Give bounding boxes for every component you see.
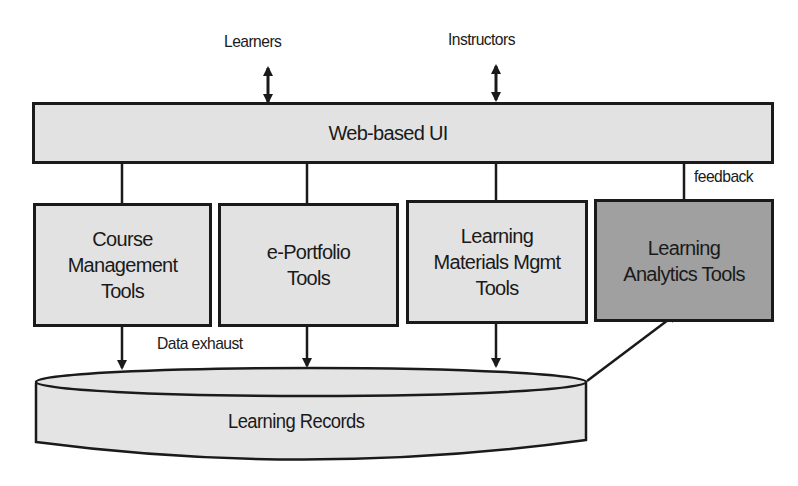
web-ui-label: Web-based UI	[328, 120, 447, 146]
course-management-tools-box: Course Management Tools	[33, 203, 212, 327]
tool-label-line: Learning	[434, 223, 561, 249]
tool-label-line: Materials Mgmt	[434, 249, 561, 275]
data-exhaust-label: Data exhaust	[157, 334, 243, 354]
instructors-label: Instructors	[448, 30, 515, 50]
tool-label-line: Course	[68, 226, 178, 252]
tool-label-line: Tools	[68, 278, 178, 304]
learners-label: Learners	[224, 32, 281, 52]
learning-analytics-tools-box: Learning Analytics Tools	[594, 199, 774, 322]
tool-label-line: Learning	[623, 235, 744, 261]
learning-records-label: Learning Records	[228, 410, 364, 433]
feedback-label: feedback	[694, 167, 753, 187]
web-ui-layer: Web-based UI	[32, 102, 774, 164]
analytics-arrow	[587, 314, 676, 381]
tool-label-line: Analytics Tools	[623, 261, 744, 287]
e-portfolio-tools-box: e-Portfolio Tools	[218, 203, 399, 327]
tool-label-line: e-Portfolio	[267, 239, 350, 265]
tool-label-line: Tools	[434, 275, 561, 301]
tool-label-line: Tools	[267, 265, 350, 291]
learning-materials-mgmt-tools-box: Learning Materials Mgmt Tools	[406, 200, 588, 324]
tool-label-line: Management	[68, 252, 178, 278]
